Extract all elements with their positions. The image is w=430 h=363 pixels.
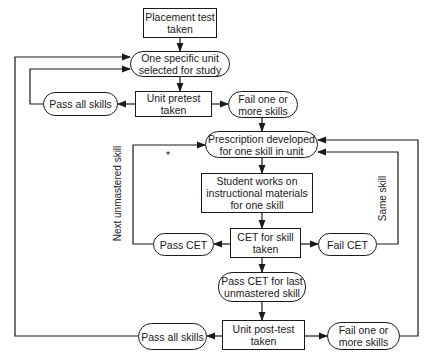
student-works-node: Student works on instructional materials… <box>201 173 313 213</box>
unit-pretest-node: Unit pretest taken <box>135 91 212 117</box>
unit-selected-node: One specific unit selected for study <box>130 51 230 77</box>
pass-cet-node: Pass CET <box>153 233 214 256</box>
unit-posttest-node: Unit post-test taken <box>222 320 305 350</box>
posttest-pass-all-node: Pass all skills <box>138 323 207 350</box>
pretest-fail-node: Fail one or more skills <box>228 91 298 118</box>
prescription-node: Prescription developed for one skill in … <box>205 131 318 158</box>
placement-test-node: Placement test taken <box>143 8 217 38</box>
cet-taken-node: CET for skill taken <box>230 228 301 258</box>
pass-cet-last-node: Pass CET for last unmastered skill <box>218 272 306 302</box>
asterisk-marker: * <box>166 150 170 161</box>
posttest-fail-node: Fail one or more skills <box>327 322 400 350</box>
next-unmastered-skill-label: Next unmastered skill <box>112 146 123 242</box>
fail-cet-node: Fail CET <box>318 233 377 256</box>
same-skill-label: Same skill <box>377 176 388 222</box>
pretest-pass-all-node: Pass all skills <box>43 92 118 116</box>
